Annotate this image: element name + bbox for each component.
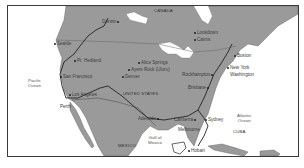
city-name: New York	[230, 65, 249, 70]
city-brisbane[interactable]: Brisbane	[188, 86, 210, 91]
city-name: Washington	[230, 72, 254, 77]
city-canberra[interactable]: Canberra	[174, 118, 197, 123]
city-name: Seattle	[57, 41, 71, 46]
city-name: Denver	[125, 74, 140, 79]
country-label-united-states: UNITED STATES	[123, 92, 158, 96]
city-name: Lookdown	[197, 30, 218, 35]
city-name: Adelaide	[138, 116, 156, 121]
city-marker-icon	[205, 119, 207, 121]
city-marker-icon	[157, 118, 159, 120]
landmass-north-america	[56, 6, 298, 156]
map-canvas[interactable]	[8, 6, 298, 156]
city-name: San Francisco	[63, 74, 92, 79]
city-name: Boston	[237, 53, 251, 58]
city-name: Brisbane	[188, 85, 206, 90]
city-marker-icon	[138, 62, 140, 64]
landmass-hispaniola	[260, 150, 280, 156]
city-name: Sydney	[208, 117, 223, 122]
city-marker-icon	[194, 39, 196, 41]
city-marker-icon	[211, 74, 213, 76]
city-name: Ayers Rock (Uluru)	[131, 67, 170, 72]
city-adelaide[interactable]: Adelaide	[138, 117, 160, 122]
city-marker-icon	[128, 69, 130, 71]
country-label-canada: CANADA	[154, 9, 173, 13]
city-name: Alice Springs	[141, 60, 168, 65]
city-name: Perth	[60, 104, 71, 109]
city-name: Canberra	[174, 117, 193, 122]
city-marker-icon	[54, 43, 56, 45]
city-seattle[interactable]: Seattle	[54, 42, 71, 47]
landmass-tasmania	[172, 142, 186, 154]
city-name: Hobart	[191, 148, 205, 153]
water-label-gulf-of-mexico: Gulf ofMexico	[148, 135, 162, 145]
city-marker-icon	[69, 94, 71, 96]
city-marker-icon	[188, 150, 190, 152]
city-denver[interactable]: Denver	[122, 75, 140, 80]
water-label-atlantic-ocean: AtlanticOcean	[237, 113, 251, 123]
city-los-angeles[interactable]: Los Angeles	[69, 93, 97, 98]
city-marker-icon	[227, 67, 229, 69]
city-melbourne[interactable]: Melbourne	[178, 128, 200, 133]
city-hobart[interactable]: Hobart	[188, 149, 205, 154]
city-marker-icon	[234, 55, 236, 57]
city-name: Pt. Hedland	[77, 58, 101, 63]
city-name: Darwin	[102, 19, 116, 24]
city-perth[interactable]: Perth	[60, 105, 71, 110]
map-frame: CANADA UNITED STATES MEXICO CUBA Pacific…	[7, 5, 299, 157]
city-ayers-rock[interactable]: Ayers Rock (Uluru)	[128, 68, 170, 73]
city-marker-icon	[74, 60, 76, 62]
country-label-mexico: MEXICO	[118, 144, 136, 148]
city-boston[interactable]: Boston	[234, 54, 251, 59]
city-sydney[interactable]: Sydney	[205, 118, 223, 123]
city-washington[interactable]: Washington	[230, 73, 254, 78]
city-name: Rockhampton	[182, 72, 210, 77]
city-name: Melbourne	[178, 127, 200, 132]
water-label-pacific-ocean: PacificOcean	[28, 78, 41, 88]
city-name: Cairns	[197, 37, 210, 42]
city-cairns[interactable]: Cairns	[194, 38, 210, 43]
city-pt-hedland[interactable]: Pt. Hedland	[74, 59, 101, 64]
landmass-cuba	[208, 144, 248, 156]
city-marker-icon	[117, 21, 119, 23]
city-lookdown[interactable]: Lookdown	[194, 31, 218, 36]
country-label-cuba: CUBA	[233, 130, 246, 134]
city-alice-springs[interactable]: Alice Springs	[138, 61, 168, 66]
city-marker-icon	[122, 76, 124, 78]
city-marker-icon	[194, 119, 196, 121]
city-new-york[interactable]: New York	[227, 66, 249, 71]
city-san-francisco[interactable]: San Francisco	[60, 75, 92, 80]
city-marker-icon	[194, 32, 196, 34]
city-marker-icon	[207, 87, 209, 89]
city-rockhampton[interactable]: Rockhampton	[182, 73, 214, 78]
city-name: Los Angeles	[72, 92, 97, 97]
city-marker-icon	[60, 76, 62, 78]
city-darwin[interactable]: Darwin	[102, 20, 120, 25]
